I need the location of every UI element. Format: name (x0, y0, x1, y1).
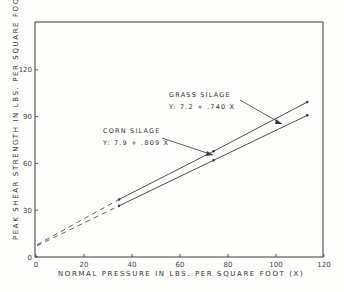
grass-silage-arrow (240, 100, 282, 124)
shear-strength-chart: 0204060801001200306090120 CORN SILAGE Y:… (0, 0, 344, 292)
data-point (118, 198, 121, 201)
y-axis-title: PEAK SHEAR STRENGTH IN LBS. PER SQUARE F… (12, 0, 20, 240)
grass-silage-equation: Y: 7.2 + .740 X (168, 103, 235, 111)
x-tick-label: 100 (269, 261, 282, 269)
y-tick-label: 60 (23, 160, 32, 168)
corn-silage-arrow (162, 138, 213, 155)
y-tick-label: 120 (19, 66, 32, 74)
x-tick-label: 80 (224, 261, 233, 269)
y-tick-label: 30 (23, 207, 32, 215)
x-tick-label: 0 (34, 261, 38, 269)
data-point (306, 101, 309, 104)
extrapolation-line (37, 206, 119, 246)
grass-arrowhead-icon (275, 119, 282, 124)
x-tick-label: 120 (317, 261, 330, 269)
y-tick-label: 90 (23, 113, 32, 121)
data-point (118, 205, 121, 208)
x-tick-label: 60 (176, 261, 185, 269)
corn-silage-equation: Y: 7.9 + .809 X (102, 139, 169, 147)
extrapolation-line (37, 199, 119, 244)
data-point (306, 114, 309, 117)
x-tick-label: 20 (80, 261, 89, 269)
y-tick-label: 0 (28, 254, 32, 262)
data-series (37, 101, 309, 246)
x-axis-title: NORMAL PRESSURE IN LBS. PER SQUARE FOOT … (58, 270, 304, 278)
data-point (212, 150, 215, 153)
x-tick-label: 40 (128, 261, 137, 269)
corn-silage-label: CORN SILAGE (103, 127, 161, 135)
data-point (212, 159, 215, 162)
grass-silage-label: GRASS SILAGE (169, 91, 231, 99)
